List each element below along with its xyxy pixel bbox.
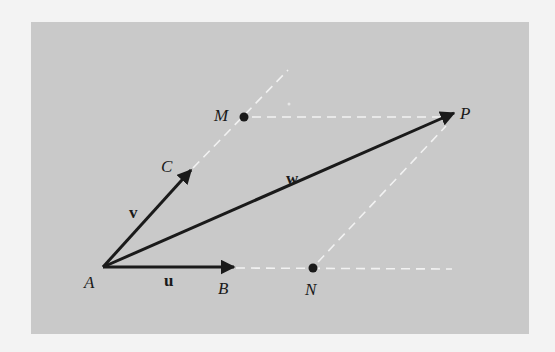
label-c: C: [161, 158, 172, 175]
point-n-dot: [309, 264, 318, 273]
label-m: M: [214, 107, 228, 124]
label-b: B: [218, 280, 228, 297]
label-n: N: [305, 281, 316, 298]
label-u: u: [164, 272, 173, 289]
dashed-line-bottom: [236, 268, 452, 269]
dashed-line-np: [318, 126, 446, 262]
label-v: v: [129, 204, 138, 221]
point-m-dot: [240, 113, 249, 122]
label-a: A: [84, 274, 94, 291]
vector-w: [103, 113, 454, 267]
faint-dot: [288, 103, 291, 106]
vector-diagram: [0, 0, 555, 352]
label-w: w: [286, 170, 298, 187]
vector-v: [103, 170, 191, 267]
label-p: P: [460, 105, 470, 122]
